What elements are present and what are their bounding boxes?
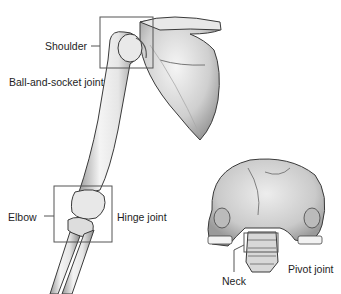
neck-label: Neck xyxy=(222,275,246,287)
joints-diagram: Shoulder Ball-and-socket joint Elbow Hin… xyxy=(0,0,341,294)
pivot-joint-label: Pivot joint xyxy=(288,263,334,275)
shoulder-label: Shoulder xyxy=(45,40,87,52)
skull xyxy=(208,159,325,272)
hinge-joint-label: Hinge joint xyxy=(117,211,167,223)
elbow-label: Elbow xyxy=(8,211,37,223)
scapula xyxy=(140,17,221,140)
ball-and-socket-label: Ball-and-socket joint xyxy=(9,76,104,88)
humerus xyxy=(78,32,146,195)
neck-leader-line xyxy=(234,245,244,272)
